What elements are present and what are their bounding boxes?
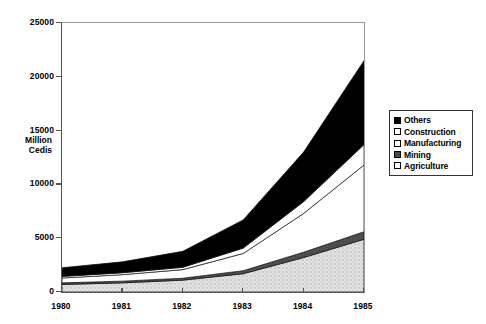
chart-legend: OthersConstructionManufacturingMiningAgr… [389,110,473,176]
x-axis-tick-label: 1982 [162,301,202,311]
chart-figure: MillionCedis 0500010000150002000025000 1… [0,0,486,324]
legend-label: Agriculture [404,161,448,171]
x-axis-tick-mark [121,288,122,293]
x-axis-tick-label: 1985 [343,301,383,311]
x-axis-tick-mark [242,288,243,293]
y-axis-title: MillionCedis [0,135,52,156]
y-axis-title-line: Cedis [0,145,52,156]
y-axis-tick-label: 25000 [8,17,54,27]
stacked-area-svg [62,23,364,292]
legend-label: Others [404,115,431,125]
plot-area [61,22,365,293]
legend-label: Construction [404,127,456,137]
legend-label: Mining [404,150,431,160]
y-axis-tick-label: 5000 [8,232,54,242]
legend-swatch-icon [394,128,401,135]
legend-item-manufacturing[interactable]: Manufacturing [394,138,469,148]
x-axis-tick-label: 1984 [283,301,323,311]
legend-swatch-icon [394,117,401,124]
x-axis-tick-label: 1981 [101,301,141,311]
legend-swatch-icon [394,140,401,147]
legend-item-others[interactable]: Others [394,115,469,125]
legend-swatch-icon [394,151,401,158]
x-axis-tick-mark [303,288,304,293]
y-axis-tick-label: 15000 [8,125,54,135]
x-axis-tick-mark [61,288,62,293]
y-axis-title-line: Million [0,135,52,146]
legend-item-mining[interactable]: Mining [394,150,469,160]
x-axis-tick-label: 1980 [41,301,81,311]
y-axis-tick-label: 20000 [8,71,54,81]
x-axis-tick-mark [182,288,183,293]
x-axis-tick-label: 1983 [222,301,262,311]
legend-swatch-icon [394,162,401,169]
legend-label: Manufacturing [404,138,461,148]
y-axis-tick-label: 0 [8,286,54,296]
legend-item-agriculture[interactable]: Agriculture [394,161,469,171]
y-axis-tick-label: 10000 [8,178,54,188]
legend-item-construction[interactable]: Construction [394,127,469,137]
x-axis-tick-mark [363,288,364,293]
